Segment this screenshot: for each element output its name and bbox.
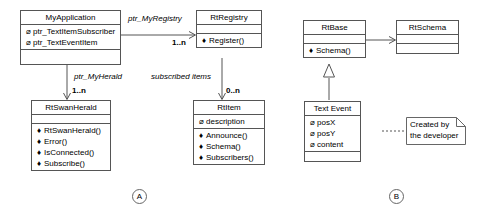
association-role-subscribed-items: subscribed items [151,72,211,81]
class-methods-rt-item: ♦ Announce() ♦ Schema() ♦ Subscribers() [194,129,264,164]
attribute-marker-icon: ⌀ [25,28,31,36]
class-title-text-event: Text Event [305,102,360,116]
attribute-marker-icon: ⌀ [198,118,204,126]
method-marker-icon: ♦ [198,154,204,162]
method-marker-icon: ♦ [36,149,42,157]
class-method-label: Error() [44,137,67,146]
uml-diagram-canvas: MyApplication ⌀ ptr_TextItemSubscriber ⌀… [0,0,477,214]
class-attribute: ⌀ posX [308,117,357,128]
class-title-my-application: MyApplication [21,11,120,25]
class-attributes-text-event: ⌀ posX ⌀ posY ⌀ content [305,116,360,152]
attribute-marker-icon: ⌀ [309,119,315,127]
class-method: ♦ RtSwanHerald() [35,125,107,136]
class-box-rt-registry[interactable]: RtRegistry ♦ Register() [196,10,262,48]
class-method-label: Register() [209,36,244,45]
class-methods-rt-registry: ♦ Register() [197,34,261,47]
class-method-label: Subscribers() [206,153,254,162]
class-attributes-rt-schema [397,35,458,44]
method-marker-icon: ♦ [198,132,204,140]
class-attribute-label: posX [317,118,335,127]
figure-label-b: B [389,189,404,204]
class-attribute: ⌀ ptr_TextItemSubscriber [24,26,117,37]
class-method-label: Schema() [316,46,351,55]
class-attributes-rt-item: ⌀ description [194,115,264,129]
note-line-1: Created by [410,120,462,131]
class-title-rt-schema: RtSchema [397,21,458,35]
class-method: ♦ IsConnected() [35,147,107,158]
class-box-my-application[interactable]: MyApplication ⌀ ptr_TextItemSubscriber ⌀… [20,10,121,65]
class-attributes-my-application: ⌀ ptr_TextItemSubscriber ⌀ ptr_TextEvent… [21,25,120,50]
class-methods-my-application [21,50,120,64]
association-role-ptr-my-registry: ptr_MyRegistry [128,14,182,23]
class-attribute-label: content [317,140,343,149]
class-attribute: ⌀ description [197,116,261,127]
method-marker-icon: ♦ [36,160,42,168]
class-box-text-event[interactable]: Text Event ⌀ posX ⌀ posY ⌀ content [304,101,361,162]
developer-note[interactable]: Created by the developer [406,117,466,145]
method-marker-icon: ♦ [201,37,207,45]
class-method-label: IsConnected() [44,148,94,157]
class-method-label: Schema() [206,142,241,151]
class-attribute-label: ptr_TextEventItem [33,38,97,47]
class-method: ♦ Register() [200,35,258,46]
class-box-rt-base[interactable]: RtBase ♦ Schema() [303,20,366,58]
class-title-rt-base: RtBase [304,21,365,35]
method-marker-icon: ♦ [36,127,42,135]
class-attributes-rt-base [304,35,365,44]
class-method-label: Subscribe() [44,159,85,168]
method-marker-icon: ♦ [198,143,204,151]
class-method: ♦ Error() [35,136,107,147]
edge-registry-to-item-arrowhead [219,93,226,100]
class-attribute-label: posY [317,129,335,138]
class-attribute-label: description [206,117,245,126]
association-role-ptr-my-herald: ptr_MyHerald [74,72,122,81]
class-title-rt-item: RtItem [194,101,264,115]
class-box-rt-schema[interactable]: RtSchema [396,20,459,54]
class-attributes-rt-registry [197,25,261,34]
class-attribute-label: ptr_TextItemSubscriber [33,27,115,36]
class-method-label: Announce() [206,131,247,140]
class-box-rt-swan-herald[interactable]: RtSwanHerald ♦ RtSwanHerald() ♦ Error() … [31,100,111,171]
class-box-rt-item[interactable]: RtItem ⌀ description ♦ Announce() ♦ Sche… [193,100,265,165]
class-attribute: ⌀ ptr_TextEventItem [24,37,117,48]
attribute-marker-icon: ⌀ [309,141,315,149]
class-attribute: ⌀ posY [308,128,357,139]
class-attributes-rt-swan-herald [32,115,110,124]
class-method: ♦ Subscribe() [35,158,107,169]
edge-base-to-schema-arrowhead [389,37,396,44]
class-method-label: RtSwanHerald() [44,126,101,135]
class-method: ♦ Schema() [307,45,362,56]
class-methods-rt-schema [397,44,458,53]
class-methods-text-event [305,152,360,161]
edge-app-to-registry-arrowhead [189,32,196,39]
generalization-triangle-icon [324,64,335,77]
class-title-rt-swan-herald: RtSwanHerald [32,101,110,115]
note-line-2: the developer [410,131,462,142]
class-method: ♦ Subscribers() [197,152,261,163]
association-multiplicity-item: 0..n [226,86,240,95]
class-methods-rt-base: ♦ Schema() [304,44,365,57]
method-marker-icon: ♦ [36,138,42,146]
figure-label-a: A [132,189,147,204]
class-methods-rt-swan-herald: ♦ RtSwanHerald() ♦ Error() ♦ IsConnected… [32,124,110,170]
class-method: ♦ Announce() [197,130,261,141]
association-multiplicity-herald: 1..n [72,86,86,95]
attribute-marker-icon: ⌀ [25,39,31,47]
class-title-rt-registry: RtRegistry [197,11,261,25]
edge-app-to-herald-arrowhead [64,93,71,100]
class-attribute: ⌀ content [308,139,357,150]
method-marker-icon: ♦ [308,47,314,55]
class-method: ♦ Schema() [197,141,261,152]
attribute-marker-icon: ⌀ [309,130,315,138]
association-multiplicity-registry: 1..n [172,38,186,47]
